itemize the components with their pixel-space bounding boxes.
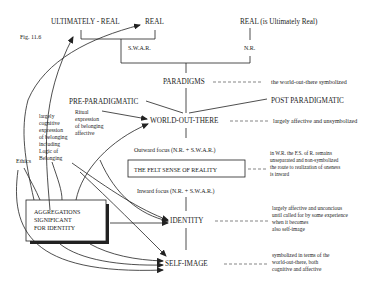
outward-focus-label: Outward focus (N.R. + S.W.A.R.) xyxy=(134,147,216,154)
nr-label: N.R. xyxy=(244,45,256,51)
paradigms-note: the world-out-there symbolized xyxy=(271,79,347,85)
felt-note-line-2: unseparated and non-symbolized xyxy=(270,157,339,163)
aggregations-to-self-image-1 xyxy=(90,244,163,261)
cognitive-line-1: largely xyxy=(39,113,55,119)
cognitive-line-2: cognitive xyxy=(39,120,60,126)
self-image-node: SELF-IMAGE xyxy=(165,260,208,268)
cognitive-line-6: Logic of xyxy=(39,148,58,154)
felt-note-line-1: in W.R. the F.S. of R. remains xyxy=(270,150,332,156)
world-out-there-node: WORLD-OUT-THERE xyxy=(150,117,219,125)
diagram: Fig. 11.6 ULTIMATELY - REAL REAL REAL (i… xyxy=(0,0,379,293)
pre-paradigmatic-node: PRE-PARADIGMATIC xyxy=(69,98,138,106)
real-label: REAL xyxy=(145,18,164,26)
identity-note-line-1: largely affective and unconcious xyxy=(272,205,342,211)
self-note-line-1: symbolized in terms of the xyxy=(272,252,330,258)
felt-note-line-4: is inward xyxy=(270,171,290,177)
inward-focus-label: Inward focus (N.R. + S.W.A.R.) xyxy=(137,188,215,195)
ritual-line-3: of belonging xyxy=(75,123,104,129)
cognitive-to-aggregations xyxy=(52,162,62,200)
self-note-line-2: world-out-there, both xyxy=(272,259,318,265)
ultimately-real-label: ULTIMATELY - REAL xyxy=(51,18,120,26)
swar-label: S.W.A.R. xyxy=(128,45,151,51)
ritual-line-4: affective xyxy=(75,130,95,136)
cognitive-line-5: including xyxy=(39,141,60,147)
identity-note-line-3: when it becomes xyxy=(272,219,308,225)
ritual-line-1: Ritual xyxy=(75,109,89,115)
aggregations-line-1: AGGREGATIONS xyxy=(34,209,80,215)
identity-node: IDENTITY xyxy=(170,217,204,225)
identity-note-line-4: also self-image xyxy=(272,226,305,232)
ethics-to-aggregations xyxy=(24,168,40,200)
ritual-to-world xyxy=(102,111,147,119)
paradigms-node: PARADIGMS xyxy=(163,78,205,86)
self-note-line-3: cognitive and affective xyxy=(272,266,322,272)
world-note: largely affective and unsymbolized xyxy=(273,118,357,124)
cognitive-line-7: Belonging xyxy=(39,155,63,161)
aggregations-to-self-image-2 xyxy=(60,244,163,265)
aggregations-line-2: SIGNIFICANT xyxy=(34,217,72,223)
aggregations-line-3: FOR IDENTITY xyxy=(34,225,76,231)
ethics-label: Ethics xyxy=(16,158,32,164)
arrow-to-real xyxy=(28,25,140,100)
identity-note-line-2: until called for by some experience xyxy=(272,212,348,218)
figure-label: Fig. 11.6 xyxy=(20,34,41,40)
cognitive-line-3: expression xyxy=(39,127,63,133)
real-is-ultimately-label: REAL (is Ultimately Real) xyxy=(240,18,318,26)
felt-note-line-3: the route to realization of oneness xyxy=(270,164,340,170)
ritual-line-2: expression xyxy=(75,116,99,122)
felt-sense-node: THE FELT SENSE OF REALITY xyxy=(134,167,218,173)
cognitive-line-4: of belonging xyxy=(39,134,68,140)
post-paradigmatic-node: POST PARADIGMATIC xyxy=(271,97,344,105)
pre-to-world xyxy=(146,101,183,113)
post-to-world xyxy=(189,99,267,113)
